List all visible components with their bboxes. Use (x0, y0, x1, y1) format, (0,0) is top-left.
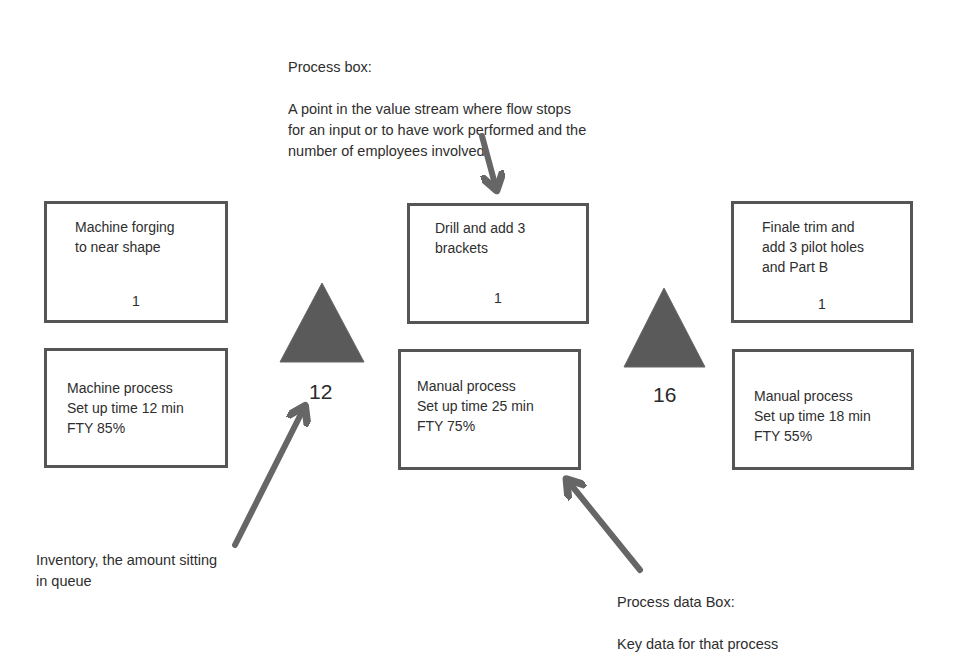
process-operators-1: 1 (47, 293, 225, 309)
process-data-box-annotation-title: Process data Box: (617, 592, 897, 613)
process-name-3: Finale trim and add 3 pilot holes and Pa… (762, 217, 864, 277)
inventory-triangle-icon (280, 283, 364, 362)
process-box-annotation-title: Process box: (288, 57, 728, 78)
inventory-quantity-2: 16 (653, 383, 676, 407)
process-box-2: Drill and add 3 brackets 1 (407, 203, 589, 324)
process-data-box-annotation-body: Key data for that process (617, 634, 897, 655)
process-data-box-1: Machine process Set up time 12 min FTY 8… (44, 348, 228, 468)
inventory-triangle-icon (624, 288, 705, 367)
inventory-annotation: Inventory, the amount sitting in queue (36, 550, 316, 592)
process-data-box-3: Manual process Set up time 18 min FTY 55… (732, 349, 914, 470)
process-box-annotation: Process box: A point in the value stream… (288, 36, 728, 183)
process-data-1: Machine process Set up time 12 min FTY 8… (67, 378, 184, 438)
process-data-2: Manual process Set up time 25 min FTY 75… (417, 376, 534, 436)
process-name-2: Drill and add 3 brackets (435, 218, 525, 258)
arrow-icon (235, 408, 304, 545)
arrow-icon (568, 481, 640, 570)
process-box-3: Finale trim and add 3 pilot holes and Pa… (731, 201, 913, 323)
process-data-3: Manual process Set up time 18 min FTY 55… (754, 386, 871, 446)
process-operators-2: 1 (410, 290, 586, 306)
inventory-quantity-1: 12 (309, 380, 332, 404)
process-box-1: Machine forging to near shape 1 (44, 201, 228, 323)
process-box-annotation-body: A point in the value stream where flow s… (288, 99, 728, 162)
process-data-box-annotation: Process data Box: Key data for that proc… (617, 571, 897, 656)
process-data-box-2: Manual process Set up time 25 min FTY 75… (398, 349, 581, 470)
process-name-1: Machine forging to near shape (75, 217, 175, 257)
process-operators-3: 1 (734, 296, 910, 312)
